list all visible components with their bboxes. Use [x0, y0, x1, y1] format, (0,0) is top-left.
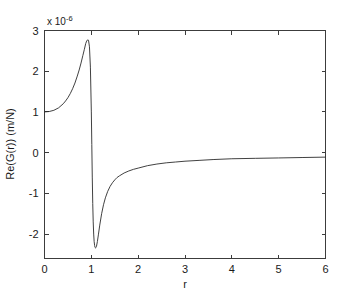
data-curve-re-g-r [45, 40, 326, 248]
x-tick-label: 4 [229, 263, 235, 275]
y-axis-title: Re(G(r)) (m/N) [4, 108, 16, 179]
x-tick-label: 3 [182, 263, 188, 275]
plot-svg: 0123456 -2-10123 x 10-6 r Re(G(r)) (m/N) [0, 0, 341, 300]
y-tick-label: 3 [32, 25, 38, 37]
y-tick-label: -2 [29, 228, 39, 240]
y-tick-label: -1 [29, 187, 39, 199]
x-tick-label: 2 [135, 263, 141, 275]
y-tick-label-group: -2-10123 [29, 25, 39, 241]
x-axis-title: r [183, 278, 187, 290]
x-tick-label: 1 [88, 263, 94, 275]
y-tick-label: 2 [32, 65, 38, 77]
x-tick-label: 0 [41, 263, 47, 275]
y-tick-label: 0 [32, 147, 38, 159]
figure-canvas: 0123456 -2-10123 x 10-6 r Re(G(r)) (m/N) [0, 0, 341, 300]
y-tick-label: 1 [32, 106, 38, 118]
plot-frame [45, 31, 326, 259]
x-tick-label: 6 [322, 263, 328, 275]
x-tick-label: 5 [276, 263, 282, 275]
y-axis-multiplier-label: x 10-6 [47, 14, 73, 28]
tick-mark-group [45, 31, 326, 259]
x-tick-label-group: 0123456 [41, 263, 328, 275]
